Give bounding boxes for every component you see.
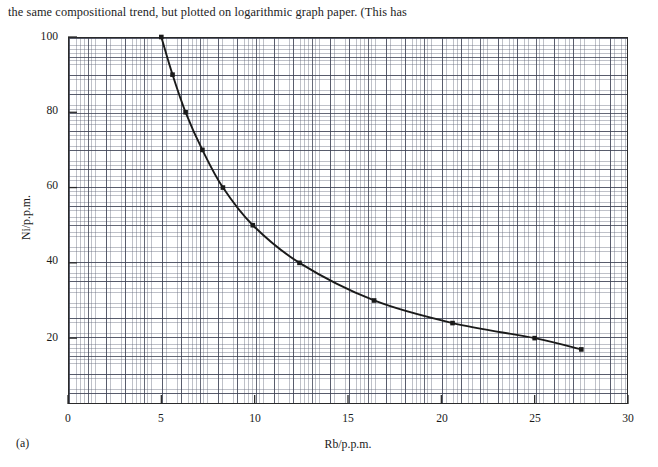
xtick-label: 25 <box>520 412 550 425</box>
xtick-label: 30 <box>613 412 643 425</box>
xtick-label: 15 <box>333 412 363 425</box>
ytick-label: 100 <box>18 30 58 43</box>
xtick-label: 20 <box>427 412 457 425</box>
y-axis-label: Ni/p.p.m. <box>19 178 34 258</box>
figure-ni-vs-rb: 100 80 60 40 20 0 5 10 15 20 25 30 Ni/p.… <box>0 0 658 467</box>
ytick-label: 20 <box>18 331 58 344</box>
plot-area <box>68 37 628 404</box>
ytick-label: 80 <box>18 104 58 117</box>
xtick-label: 10 <box>240 412 270 425</box>
x-axis-label: Rb/p.p.m. <box>278 437 418 452</box>
xtick-label: 0 <box>53 412 83 425</box>
grid-major <box>69 38 627 403</box>
panel-label: (a) <box>16 436 29 451</box>
xtick-label: 5 <box>146 412 176 425</box>
grid-fine <box>69 38 627 403</box>
